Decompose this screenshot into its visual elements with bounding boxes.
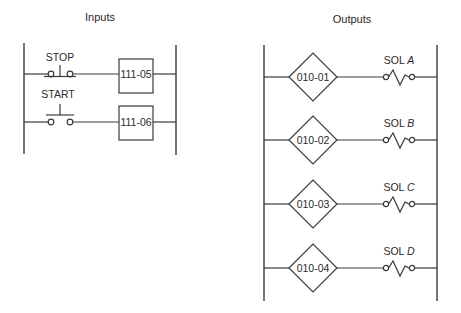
solenoid-icon [383, 70, 414, 85]
input-rung-start: START 111-06 [24, 88, 176, 140]
solenoid-label: SOL D [383, 245, 415, 257]
nc-pushbutton-icon [44, 65, 76, 77]
solenoid-label: SOL C [383, 181, 415, 193]
solenoid-icon [383, 261, 414, 276]
outputs-title: Outputs [333, 13, 372, 25]
ladder-diagram: Inputs STOP 111-05 START [0, 0, 461, 313]
solenoid-icon [383, 133, 414, 148]
output-address: 010-04 [297, 262, 330, 274]
input-address: 111-05 [120, 68, 151, 80]
output-address: 010-03 [297, 198, 330, 210]
output-rung-a: 010-01 SOL A [264, 53, 437, 101]
solenoid-label: SOL B [384, 117, 415, 129]
inputs-section: Inputs STOP 111-05 START [24, 11, 176, 155]
solenoid-label: SOL A [384, 54, 415, 66]
input-rung-stop: STOP 111-05 [24, 51, 176, 93]
inputs-title: Inputs [85, 11, 115, 23]
stop-label: STOP [46, 51, 74, 63]
output-address: 010-02 [297, 134, 330, 146]
outputs-section: Outputs 010-01 SOL A 010-02 [264, 13, 437, 301]
output-rung-d: 010-04 SOL D [264, 244, 437, 292]
start-label: START [41, 88, 75, 100]
no-pushbutton-icon [46, 104, 74, 125]
input-address: 111-06 [120, 116, 151, 128]
solenoid-icon [383, 197, 414, 212]
output-rung-b: 010-02 SOL B [264, 116, 437, 164]
output-rung-c: 010-03 SOL C [264, 180, 437, 228]
output-address: 010-01 [297, 71, 330, 83]
